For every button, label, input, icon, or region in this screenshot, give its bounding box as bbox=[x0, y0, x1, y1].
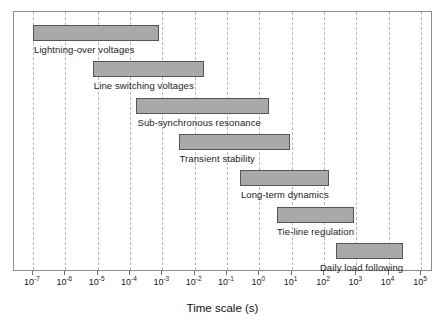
tick-label-4: 104 bbox=[381, 277, 395, 287]
bar-label-1: Lightning-over voltages bbox=[34, 44, 135, 55]
tick-label-5: 105 bbox=[413, 277, 427, 287]
tick-mark-3 bbox=[355, 271, 356, 275]
bar-label-4: Transient stability bbox=[180, 153, 255, 164]
tick-label--6: 10-6 bbox=[56, 277, 72, 287]
bar-label-7: Daily load following bbox=[320, 262, 403, 273]
chart-page: Lightning-over voltagesLine switching vo… bbox=[0, 0, 445, 330]
gridline-4 bbox=[389, 12, 390, 270]
tick-mark--1 bbox=[226, 271, 227, 275]
bar-1 bbox=[33, 25, 159, 41]
tick-mark--7 bbox=[32, 271, 33, 275]
tick-mark--4 bbox=[129, 271, 130, 275]
bar-7 bbox=[336, 243, 404, 259]
plot-area: Lightning-over voltagesLine switching vo… bbox=[13, 11, 432, 271]
bar-6 bbox=[277, 207, 354, 223]
bar-5 bbox=[240, 170, 330, 186]
tick-label--7: 10-7 bbox=[24, 277, 40, 287]
tick-label--1: 10-1 bbox=[218, 277, 234, 287]
gridline-5 bbox=[421, 12, 422, 270]
tick-mark-1 bbox=[291, 271, 292, 275]
tick-label--3: 10-3 bbox=[153, 277, 169, 287]
tick-mark--3 bbox=[161, 271, 162, 275]
tick-mark-0 bbox=[258, 271, 259, 275]
tick-mark--5 bbox=[97, 271, 98, 275]
bar-label-3: Sub-synchronous resonance bbox=[137, 117, 260, 128]
tick-label-1: 101 bbox=[284, 277, 298, 287]
tick-label--4: 10-4 bbox=[121, 277, 137, 287]
bar-2 bbox=[93, 61, 205, 77]
gridline--3 bbox=[162, 12, 163, 270]
tick-label-0: 100 bbox=[252, 277, 266, 287]
x-axis-title: Time scale (s) bbox=[0, 302, 445, 314]
tick-mark--2 bbox=[194, 271, 195, 275]
gridline-3 bbox=[356, 12, 357, 270]
tick-mark-2 bbox=[323, 271, 324, 275]
tick-label--5: 10-5 bbox=[89, 277, 105, 287]
bar-label-6: Tie-line regulation bbox=[277, 226, 354, 237]
bar-3 bbox=[136, 98, 269, 114]
tick-label--2: 10-2 bbox=[186, 277, 202, 287]
bar-4 bbox=[179, 134, 291, 150]
bar-label-2: Line switching voltages bbox=[94, 80, 194, 91]
tick-label-3: 103 bbox=[349, 277, 363, 287]
bar-label-5: Long-term dynamics bbox=[241, 189, 329, 200]
tick-mark-4 bbox=[388, 271, 389, 275]
tick-label-2: 102 bbox=[316, 277, 330, 287]
tick-mark-5 bbox=[420, 271, 421, 275]
tick-mark--6 bbox=[64, 271, 65, 275]
